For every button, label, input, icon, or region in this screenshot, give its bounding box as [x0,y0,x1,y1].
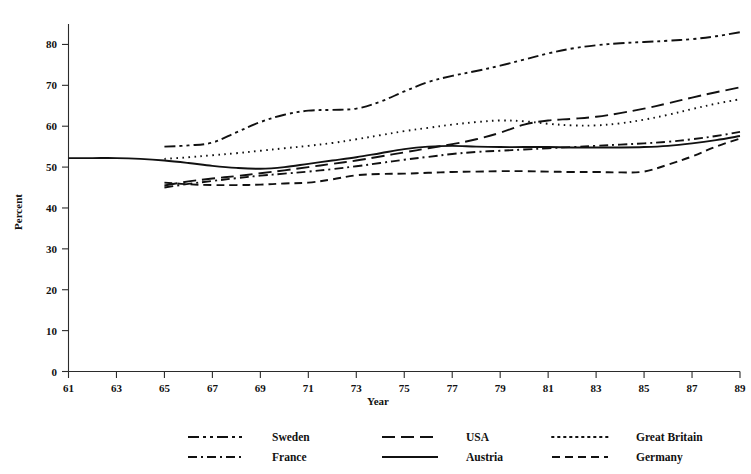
x-tick-label: 63 [111,382,123,394]
x-tick-label: 73 [351,382,363,394]
x-tick-label: 75 [399,382,411,394]
y-tick-group: 01020304050607080 [46,38,69,377]
x-tick-label: 71 [303,382,314,394]
series-line-great-britain [164,99,740,159]
y-tick-label: 40 [46,202,58,214]
series-group [69,32,741,187]
x-tick-group: 616365676971737577798183858789 [63,372,746,395]
series-line-france [164,132,740,188]
y-tick-label: 70 [46,79,58,91]
x-tick-label: 83 [591,382,603,394]
x-tick-label: 89 [735,382,747,394]
series-line-austria [69,136,741,169]
x-tick-label: 85 [639,382,651,394]
y-tick-label: 50 [46,161,58,173]
y-tick-label: 30 [46,243,58,255]
y-tick-label: 80 [46,38,58,50]
legend-label-france: France [272,451,306,463]
x-tick-label: 67 [207,382,219,394]
x-tick-label: 69 [255,382,267,394]
y-tick-label: 20 [46,284,58,296]
y-tick-label: 60 [46,120,58,132]
legend-label-usa: USA [466,431,490,443]
x-tick-label: 65 [159,382,171,394]
x-tick-label: 77 [447,382,459,394]
legend-label-great-britain: Great Britain [636,431,703,443]
legend-label-germany: Germany [636,451,683,464]
legend-label-sweden: Sweden [272,431,310,443]
y-axis-title: Percent [12,194,24,230]
chart-figure: 01020304050607080 Percent 61636567697173… [0,0,751,474]
legend-label-austria: Austria [466,451,503,463]
x-tick-label: 61 [63,382,74,394]
series-line-usa [164,87,740,185]
y-tick-label: 0 [52,366,58,378]
y-axis: 01020304050607080 Percent [12,24,69,378]
series-line-sweden [164,32,740,146]
x-axis-title: Year [367,395,389,407]
y-tick-label: 10 [46,325,58,337]
line-chart: 01020304050607080 Percent 61636567697173… [0,0,751,474]
x-tick-label: 81 [543,382,554,394]
x-tick-label: 87 [687,382,699,394]
x-tick-label: 79 [495,382,507,394]
chart-legend: SwedenUSAGreat BritainFranceAustriaGerma… [188,431,703,464]
x-axis: 616365676971737577798183858789 Year [63,372,746,408]
